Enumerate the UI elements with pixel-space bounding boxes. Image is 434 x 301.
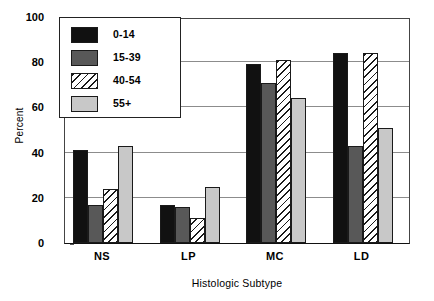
bar-chart-figure: Percent 020406080100 NSLPMCLD Histologic… xyxy=(0,0,434,301)
legend-item-label: 0-14 xyxy=(113,28,135,40)
bar-lp-15-39 xyxy=(175,207,190,243)
y-tick-label: 60 xyxy=(10,102,44,113)
legend-item-label: 15-39 xyxy=(113,51,141,63)
bar-group-ld xyxy=(325,19,412,243)
legend: 0-1415-3940-5455+ xyxy=(59,17,181,118)
bar-mc-0-14 xyxy=(246,64,261,243)
legend-swatch-icon xyxy=(71,73,98,89)
y-tick-label: 80 xyxy=(10,57,44,68)
legend-item-label: 40-54 xyxy=(113,74,141,86)
bar-mc-40-54 xyxy=(276,60,291,243)
y-tick-label: 0 xyxy=(10,238,44,249)
legend-swatch-icon xyxy=(71,27,98,43)
x-tick-label-lp: LP xyxy=(146,250,232,262)
legend-item: 40-54 xyxy=(71,72,175,91)
bar-ld-15-39 xyxy=(348,146,363,243)
legend-item-label: 55+ xyxy=(113,97,131,109)
legend-item: 55+ xyxy=(71,95,175,114)
legend-swatch-icon xyxy=(71,96,98,112)
bar-ld-0-14 xyxy=(333,53,348,243)
legend-swatch-icon xyxy=(71,50,98,66)
legend-item: 15-39 xyxy=(71,49,175,68)
bar-ns-55plus xyxy=(118,146,133,243)
y-tick-label: 100 xyxy=(10,12,44,23)
bar-ns-0-14 xyxy=(73,150,88,243)
y-axis-ticks: 020406080100 xyxy=(10,0,44,301)
bar-ns-15-39 xyxy=(88,205,103,243)
bar-mc-55plus xyxy=(291,98,306,243)
y-tick-label: 40 xyxy=(10,148,44,159)
x-tick-label-ns: NS xyxy=(59,250,145,262)
bar-group-mc xyxy=(238,19,325,243)
legend-item: 0-14 xyxy=(71,26,175,45)
y-tick-mark xyxy=(70,244,74,245)
bar-lp-0-14 xyxy=(160,205,175,243)
bar-mc-15-39 xyxy=(261,83,276,243)
x-tick-label-mc: MC xyxy=(232,250,318,262)
bar-ld-55plus xyxy=(378,128,393,243)
x-tick-label-ld: LD xyxy=(319,250,405,262)
bar-ns-40-54 xyxy=(103,189,118,243)
y-tick-label: 20 xyxy=(10,193,44,204)
bar-lp-40-54 xyxy=(190,218,205,243)
bar-lp-55plus xyxy=(205,187,220,244)
bar-ld-40-54 xyxy=(363,53,378,243)
x-axis-title: Histologic Subtype xyxy=(64,277,410,289)
